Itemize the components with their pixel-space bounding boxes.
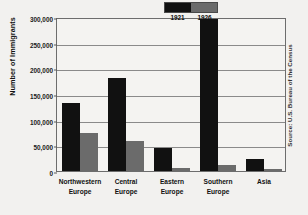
bar-1926 [218, 165, 236, 171]
y-tick-mark [54, 173, 57, 174]
x-axis-category-label: Asia [257, 177, 271, 187]
x-axis-category-line: Europe [59, 187, 102, 197]
bar-1921 [200, 19, 218, 171]
bar-1921 [154, 148, 172, 171]
bar-group: CentralEurope [103, 19, 149, 171]
x-axis-category-line: Eastern [160, 177, 184, 187]
plot-area: 300,000250,000200,000150,000100,00050,00… [56, 18, 286, 172]
x-axis-category-line: Central [115, 177, 138, 187]
legend-labels: 19211926 [164, 14, 218, 21]
x-axis-category-line: Southern [204, 177, 233, 187]
y-tick-label: 300,000 [30, 16, 53, 23]
x-axis-category-line: Asia [257, 177, 271, 187]
x-axis-category-line: Europe [115, 187, 138, 197]
legend-label-1921: 1921 [164, 14, 191, 21]
x-axis-category-label: CentralEurope [115, 177, 138, 196]
bar-1921 [246, 159, 264, 171]
bar-group: EasternEurope [149, 19, 195, 171]
legend: 19211926 [164, 2, 224, 21]
x-axis-category-line: Europe [160, 187, 184, 197]
y-axis-title: Number of Immigrants [8, 0, 17, 117]
bar-1921 [108, 78, 126, 171]
y-tick-label: 50,000 [33, 144, 53, 151]
y-tick-label: 150,000 [30, 93, 53, 100]
bar-group: Asia [241, 19, 287, 171]
y-tick-label: 100,000 [30, 118, 53, 125]
legend-label-1926: 1926 [191, 14, 218, 21]
chart-figure: Number of Immigrants Source: U.S. Bureau… [0, 0, 308, 215]
bar-1921 [62, 103, 80, 171]
legend-swatches [164, 2, 218, 13]
legend-swatch-1926 [191, 3, 217, 12]
x-axis-category-line: Northwestern [59, 177, 102, 187]
bar-1926 [80, 133, 98, 171]
x-axis-category-line: Europe [204, 187, 233, 197]
bar-1926 [264, 169, 282, 171]
x-axis-category-label: EasternEurope [160, 177, 184, 196]
x-axis-category-label: NorthwesternEurope [59, 177, 102, 196]
y-tick-label: 0 [49, 170, 53, 177]
y-tick-label: 200,000 [30, 67, 53, 74]
bar-1926 [126, 141, 144, 171]
legend-swatch-1921 [165, 3, 191, 12]
bar-group: SouthernEurope [195, 19, 241, 171]
bar-1926 [172, 168, 190, 171]
bar-group: NorthwesternEurope [57, 19, 103, 171]
bar-groups: NorthwesternEuropeCentralEuropeEasternEu… [57, 19, 285, 171]
x-axis-category-label: SouthernEurope [204, 177, 233, 196]
y-tick-label: 250,000 [30, 41, 53, 48]
